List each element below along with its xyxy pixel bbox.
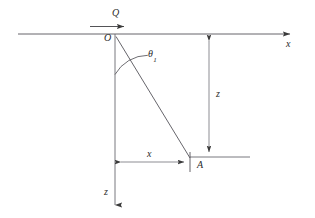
origin-label-o: O — [104, 33, 111, 43]
horizontal-dimension-label: x — [147, 149, 151, 159]
point-a-label: A — [197, 160, 203, 170]
angle-label-theta1: θ1 — [148, 49, 156, 62]
load-label-q: Q — [112, 8, 119, 18]
angle-arc-theta1 — [115, 55, 148, 74]
x-axis-label: x — [286, 39, 290, 49]
figure-container: Q O θ1 x z x A z — [0, 0, 315, 218]
diagram-canvas — [0, 0, 315, 218]
depth-dimension-label: z — [216, 89, 220, 99]
theta-subscript: 1 — [153, 56, 157, 64]
z-axis-label: z — [104, 187, 108, 197]
